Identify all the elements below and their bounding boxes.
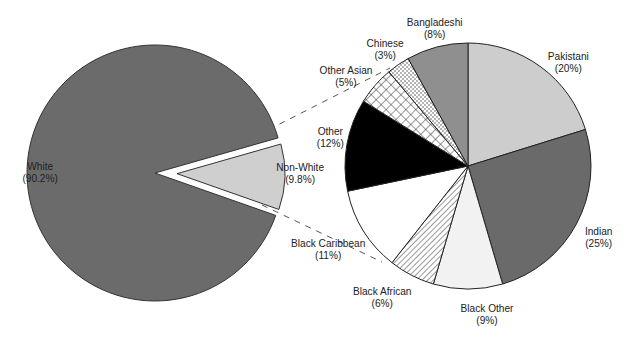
label-indian: Indian (25%) bbox=[585, 225, 613, 249]
label-chinese-pct: (3%) bbox=[367, 49, 404, 61]
label-white-pct: (90.2%) bbox=[22, 172, 57, 184]
label-other-pct: (12%) bbox=[317, 137, 344, 149]
label-other: Other (12%) bbox=[317, 125, 344, 149]
label-pakistani-pct: (20%) bbox=[548, 62, 589, 74]
label-black-african: Black African (6%) bbox=[353, 285, 412, 309]
main-pie bbox=[27, 45, 285, 301]
label-black-caribbean-name: Black Caribbean bbox=[291, 237, 365, 249]
label-indian-pct: (25%) bbox=[585, 237, 613, 249]
label-black-african-name: Black African bbox=[353, 285, 412, 297]
label-black-caribbean-pct: (11%) bbox=[291, 249, 365, 261]
label-nonwhite-pct: (9.8%) bbox=[276, 173, 324, 185]
label-chinese-name: Chinese bbox=[367, 37, 404, 49]
label-bangladeshi: Bangladeshi (8%) bbox=[407, 16, 463, 40]
label-bangladeshi-pct: (8%) bbox=[407, 28, 463, 40]
label-nonwhite: Non-White (9.8%) bbox=[276, 161, 324, 185]
breakdown-pie bbox=[345, 43, 591, 289]
label-pakistani-name: Pakistani bbox=[548, 50, 589, 62]
label-pakistani: Pakistani (20%) bbox=[548, 50, 589, 74]
label-other-asian: Other Asian (5%) bbox=[320, 64, 373, 88]
label-black-caribbean: Black Caribbean (11%) bbox=[291, 237, 365, 261]
label-black-other-pct: (9%) bbox=[461, 314, 514, 326]
label-indian-name: Indian bbox=[585, 225, 613, 237]
label-white: White (90.2%) bbox=[22, 160, 57, 184]
label-white-name: White bbox=[22, 160, 57, 172]
label-other-name: Other bbox=[317, 125, 344, 137]
label-black-other-name: Black Other bbox=[461, 302, 514, 314]
label-other-asian-name: Other Asian bbox=[320, 64, 373, 76]
label-nonwhite-name: Non-White bbox=[276, 161, 324, 173]
label-other-asian-pct: (5%) bbox=[320, 76, 373, 88]
label-chinese: Chinese (3%) bbox=[367, 37, 404, 61]
label-black-african-pct: (6%) bbox=[353, 297, 412, 309]
label-black-other: Black Other (9%) bbox=[461, 302, 514, 326]
label-bangladeshi-name: Bangladeshi bbox=[407, 16, 463, 28]
